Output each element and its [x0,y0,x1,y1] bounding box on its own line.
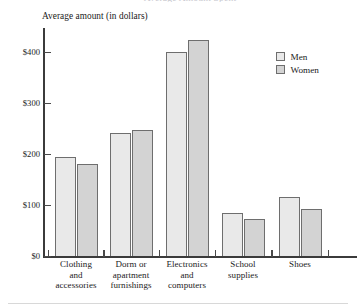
cropped-chart-title: Average Amount Spent [95,0,285,2]
bar-women-3 [244,219,265,256]
legend-swatch-icon [276,52,285,61]
legend-label: Men [291,52,308,62]
bar-men-3 [222,213,243,256]
bar-women-1 [132,130,153,256]
bar-men-1 [110,133,131,256]
y-tick-mark [44,52,51,53]
x-axis-line [43,256,357,258]
chart-legend: MenWomen [276,50,319,76]
bar-women-4 [301,209,322,256]
bar-men-2 [166,52,187,256]
y-axis-line [43,28,45,257]
bar-men-0 [55,157,76,256]
bar-chart: Average Amount Spent Average amount (in … [0,0,364,307]
x-tick-mark [328,250,329,257]
y-tick-mark [44,154,51,155]
x-tick-mark [103,250,104,257]
footer-divider [8,303,348,304]
legend-item-women: Women [276,63,319,76]
y-tick-mark [44,103,51,104]
y-axis-title: Average amount (in dollars) [42,11,148,21]
category-label-4: Shoes [260,259,340,270]
x-tick-mark [48,250,49,257]
y-tick-label: $100 [6,200,40,210]
legend-swatch-icon [276,65,285,74]
y-tick-label: $0 [6,251,40,261]
x-tick-mark [272,250,273,257]
y-tick-mark [44,205,51,206]
legend-item-men: Men [276,50,319,63]
x-tick-mark [159,250,160,257]
bar-women-0 [77,164,98,256]
legend-label: Women [291,65,319,75]
y-tick-label: $400 [6,47,40,57]
x-tick-mark [215,250,216,257]
bar-women-2 [188,40,209,256]
bar-men-4 [279,197,300,256]
y-tick-label: $300 [6,98,40,108]
y-tick-label: $200 [6,149,40,159]
